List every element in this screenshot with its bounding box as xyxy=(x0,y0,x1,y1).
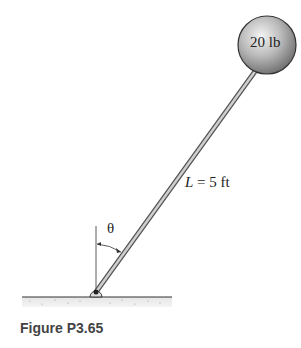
length-label: L = 5 ft xyxy=(185,174,230,191)
diagram-canvas xyxy=(0,0,301,348)
figure-caption: Figure P3.65 xyxy=(20,320,103,336)
length-value: = 5 ft xyxy=(193,174,229,190)
rod xyxy=(96,70,256,292)
pivot-pin xyxy=(90,290,102,298)
ground xyxy=(22,297,172,307)
angle-label: θ xyxy=(107,220,114,237)
ball-weight-label: 20 lb xyxy=(250,34,280,51)
